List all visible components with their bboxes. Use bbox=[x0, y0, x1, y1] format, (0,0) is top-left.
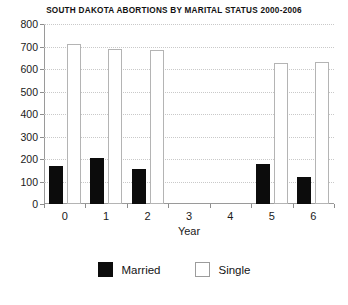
x-axis-tick-label: 4 bbox=[227, 210, 233, 222]
y-axis-tick-label: 400 bbox=[20, 108, 38, 120]
x-axis-tick-label: 1 bbox=[103, 210, 109, 222]
legend-item-married[interactable]: Married bbox=[98, 262, 161, 277]
legend-item-single[interactable]: Single bbox=[195, 262, 251, 277]
bar-married-6 bbox=[297, 177, 311, 204]
bar-single-0 bbox=[67, 44, 81, 204]
x-axis-tick-label: 3 bbox=[186, 210, 192, 222]
bar-group bbox=[254, 24, 290, 204]
x-axis-tick bbox=[251, 204, 252, 208]
bar-single-1 bbox=[108, 49, 122, 204]
legend-label: Single bbox=[219, 264, 251, 276]
y-axis-tick-label: 200 bbox=[20, 153, 38, 165]
x-axis-tick-label: 0 bbox=[62, 210, 68, 222]
x-axis-tick bbox=[85, 204, 86, 208]
y-axis-tick bbox=[40, 24, 44, 25]
plot-area: 0100200300400500600700800 0123456 bbox=[44, 24, 334, 204]
legend-swatch-married bbox=[98, 262, 113, 277]
bar-married-2 bbox=[132, 169, 146, 204]
legend-swatch-single bbox=[195, 262, 210, 277]
x-axis-title: Year bbox=[44, 225, 334, 237]
x-axis-tick bbox=[44, 204, 45, 208]
bar-single-2 bbox=[150, 50, 164, 204]
x-axis-tick bbox=[127, 204, 128, 208]
y-axis-tick-label: 600 bbox=[20, 63, 38, 75]
x-axis-tick-label: 2 bbox=[145, 210, 151, 222]
y-axis-tick-label: 700 bbox=[20, 41, 38, 53]
y-axis-tick-label: 500 bbox=[20, 86, 38, 98]
bar-group bbox=[47, 24, 83, 204]
bar-group bbox=[130, 24, 166, 204]
x-axis-tick bbox=[293, 204, 294, 208]
y-axis-tick bbox=[40, 159, 44, 160]
x-axis-tick-label: 6 bbox=[310, 210, 316, 222]
bar-married-5 bbox=[256, 164, 270, 205]
y-axis-tick bbox=[40, 69, 44, 70]
plot-inner: 0100200300400500600700800 0123456 bbox=[44, 24, 334, 204]
legend-label: Married bbox=[122, 264, 161, 276]
bar-chart-figure: SOUTH DAKOTA ABORTIONS BY MARITAL STATUS… bbox=[0, 0, 348, 305]
x-axis-tick bbox=[168, 204, 169, 208]
y-axis-tick-label: 0 bbox=[32, 198, 38, 210]
y-axis-tick bbox=[40, 47, 44, 48]
y-axis-tick-label: 300 bbox=[20, 131, 38, 143]
bar-married-1 bbox=[90, 158, 104, 204]
bar-group bbox=[295, 24, 331, 204]
y-axis-tick bbox=[40, 182, 44, 183]
x-axis-tick bbox=[210, 204, 211, 208]
y-axis-tick-label: 100 bbox=[20, 176, 38, 188]
x-axis-tick bbox=[334, 204, 335, 208]
chart-legend: MarriedSingle bbox=[0, 262, 348, 277]
bar-married-0 bbox=[49, 166, 63, 204]
bar-single-6 bbox=[315, 62, 329, 204]
chart-title: SOUTH DAKOTA ABORTIONS BY MARITAL STATUS… bbox=[0, 6, 348, 15]
y-axis-tick bbox=[40, 92, 44, 93]
y-axis-tick bbox=[40, 137, 44, 138]
bar-group bbox=[171, 24, 207, 204]
y-axis-tick-label: 800 bbox=[20, 18, 38, 30]
bar-single-5 bbox=[274, 63, 288, 204]
bar-group bbox=[212, 24, 248, 204]
bar-group bbox=[88, 24, 124, 204]
y-axis-tick bbox=[40, 114, 44, 115]
x-axis-tick-label: 5 bbox=[269, 210, 275, 222]
